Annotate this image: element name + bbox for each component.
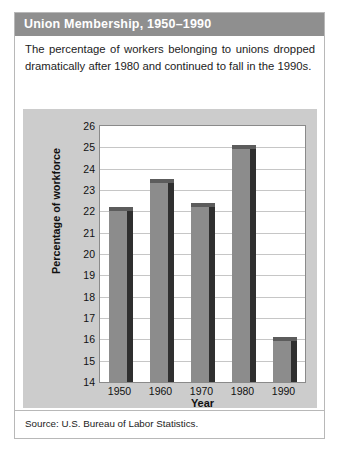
bar-shadow bbox=[250, 148, 256, 382]
figure-title: Union Membership, 1950–1990 bbox=[24, 17, 211, 31]
y-tick-label: 17 bbox=[73, 312, 95, 324]
y-tick-label: 26 bbox=[73, 120, 95, 132]
gridline bbox=[100, 147, 305, 148]
bar-shadow bbox=[291, 340, 297, 382]
y-tick-label: 15 bbox=[73, 355, 95, 367]
y-tick-label: 22 bbox=[73, 205, 95, 217]
gridline bbox=[100, 190, 305, 191]
figure-screenshot: Union Membership, 1950–1990 The percenta… bbox=[0, 0, 339, 461]
x-tick-label: 1960 bbox=[149, 385, 172, 397]
bar-shadow bbox=[209, 206, 215, 382]
plot-area bbox=[99, 125, 306, 383]
source-note: Source: U.S. Bureau of Labor Statistics. bbox=[25, 418, 198, 429]
y-tick-label: 16 bbox=[73, 333, 95, 345]
y-tick-label: 20 bbox=[73, 248, 95, 260]
y-axis-ticks: 26252423222120191817161514 bbox=[69, 125, 95, 383]
bar-top-face bbox=[191, 203, 215, 207]
y-tick-label: 21 bbox=[73, 227, 95, 239]
chart-panel: Percentage of workforce 2625242322212019… bbox=[23, 109, 317, 408]
y-tick-label: 23 bbox=[73, 184, 95, 196]
y-tick-label: 25 bbox=[73, 141, 95, 153]
y-tick-label: 24 bbox=[73, 163, 95, 175]
bar-top-face bbox=[150, 179, 174, 183]
bar-shadow bbox=[168, 182, 174, 382]
x-tick-label: 1990 bbox=[272, 385, 295, 397]
y-tick-label: 14 bbox=[73, 376, 95, 388]
gridline bbox=[100, 169, 305, 170]
bar-top-face bbox=[109, 207, 133, 211]
figure-caption: The percentage of workers belonging to u… bbox=[25, 41, 315, 74]
x-tick-label: 1950 bbox=[108, 385, 131, 397]
bar-shadow bbox=[127, 210, 133, 382]
bar-top-face bbox=[273, 337, 297, 341]
x-axis-title: Year bbox=[99, 397, 306, 409]
figure-box: Union Membership, 1950–1990 The percenta… bbox=[14, 12, 325, 439]
figure-title-bar: Union Membership, 1950–1990 bbox=[15, 13, 324, 36]
y-tick-label: 18 bbox=[73, 291, 95, 303]
y-tick-label: 19 bbox=[73, 269, 95, 281]
source-divider bbox=[15, 410, 324, 411]
bar-top-face bbox=[232, 145, 256, 149]
y-axis-title: Percentage of workforce bbox=[50, 131, 62, 291]
x-tick-label: 1970 bbox=[190, 385, 213, 397]
x-tick-label: 1980 bbox=[231, 385, 254, 397]
